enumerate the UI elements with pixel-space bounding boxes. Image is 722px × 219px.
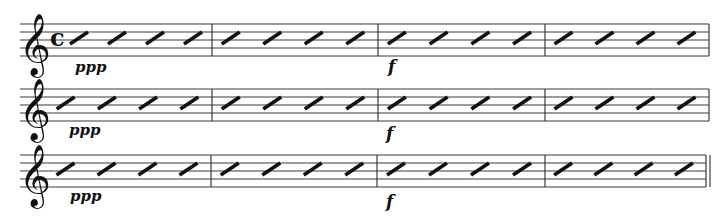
slash-notehead <box>221 163 239 175</box>
slash-notehead <box>430 97 448 109</box>
slash-notehead <box>471 32 489 44</box>
slash-notehead <box>637 32 655 44</box>
slash-notehead <box>180 97 198 109</box>
slash-notehead <box>555 97 573 109</box>
slash-notehead <box>305 97 323 109</box>
staff-system: 𝄞pppf <box>19 77 709 143</box>
slash-notehead <box>263 97 281 109</box>
slash-notehead <box>222 32 240 44</box>
slash-notehead <box>471 163 489 175</box>
slash-notehead <box>263 32 281 44</box>
slash-notehead <box>346 97 364 109</box>
dynamic-pianississimo: ppp <box>69 121 101 139</box>
slash-notehead <box>345 163 363 175</box>
slash-notehead <box>513 32 531 44</box>
slash-notehead <box>554 163 572 175</box>
staff-system: 𝄞pppf <box>19 143 710 211</box>
measure <box>222 32 365 44</box>
slash-notehead <box>304 163 322 175</box>
slash-notehead <box>675 163 693 175</box>
slash-notehead <box>430 32 448 44</box>
measure <box>388 97 531 109</box>
measure <box>555 97 696 109</box>
slash-notehead <box>678 97 696 109</box>
common-time-signature: c <box>50 23 65 52</box>
measure <box>57 163 198 175</box>
slash-notehead <box>637 97 655 109</box>
measure <box>222 97 365 109</box>
treble-clef-icon: 𝄞 <box>19 143 51 209</box>
dynamic-pianississimo: ppp <box>70 187 102 205</box>
slash-notehead <box>594 163 612 175</box>
slash-notehead <box>635 163 653 175</box>
measure <box>555 32 696 44</box>
slash-notehead <box>108 32 126 44</box>
slash-notehead <box>513 97 531 109</box>
slash-notehead <box>555 32 573 44</box>
slash-notehead <box>513 163 531 175</box>
slash-notehead <box>305 32 323 44</box>
dynamic-pianississimo: ppp <box>75 58 107 76</box>
slash-notehead <box>139 163 157 175</box>
treble-clef-icon: 𝄞 <box>19 12 51 78</box>
slash-notehead <box>678 32 696 44</box>
measure <box>387 163 531 175</box>
measure <box>57 97 199 109</box>
dynamic-forte: f <box>385 191 396 211</box>
slash-notehead <box>596 32 614 44</box>
staff-system: 𝄞cpppf <box>19 12 709 78</box>
slash-notehead <box>98 97 116 109</box>
slash-notehead <box>387 163 405 175</box>
slash-notehead <box>180 163 198 175</box>
dynamic-forte: f <box>387 56 398 76</box>
slash-notehead <box>262 163 280 175</box>
measure <box>221 163 364 175</box>
slash-notehead <box>388 97 406 109</box>
slash-notehead <box>471 97 489 109</box>
slash-notehead <box>57 97 75 109</box>
slash-notehead <box>70 32 88 44</box>
slash-notehead <box>388 32 406 44</box>
dynamic-forte: f <box>385 123 396 143</box>
slash-notehead <box>57 163 75 175</box>
slash-notehead <box>146 32 164 44</box>
slash-notehead <box>429 163 447 175</box>
slash-notehead <box>139 97 157 109</box>
slash-notehead <box>98 163 116 175</box>
music-score: 𝄞cpppf𝄞pppf𝄞pppf <box>0 0 722 219</box>
measure <box>388 32 531 44</box>
slash-notehead <box>346 32 364 44</box>
treble-clef-icon: 𝄞 <box>19 77 51 143</box>
measure <box>554 163 693 175</box>
slash-notehead <box>596 97 614 109</box>
slash-notehead <box>184 32 202 44</box>
slash-notehead <box>222 97 240 109</box>
measure <box>70 32 202 44</box>
